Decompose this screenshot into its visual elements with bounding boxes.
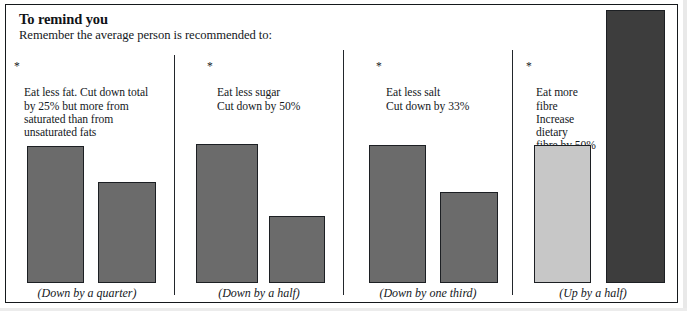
panel-salt-note-text: Eat less salt Cut down by 33%	[386, 86, 516, 112]
infographic-screenshot: To remind you Remember the average perso…	[0, 0, 687, 311]
panel-fat-note-text: Eat less fat. Cut down total by 25% but …	[24, 86, 169, 139]
bullet-marker-salt: *	[376, 60, 382, 73]
bar-fibre-recommended	[606, 10, 665, 283]
panel-fat: * Eat less fat. Cut down total by 25% bu…	[0, 0, 174, 311]
panel-sugar: * Eat less sugar Cut down by 50% (Down b…	[175, 0, 343, 311]
bullet-marker-sugar: *	[207, 60, 213, 73]
panel-salt: * Eat less salt Cut down by 33% (Down by…	[344, 0, 512, 311]
bar-salt-current	[369, 145, 426, 283]
bar-fat-current	[27, 146, 84, 283]
panel-sugar-note: * Eat less sugar Cut down by 50%	[207, 60, 347, 126]
bullet-marker-fibre: *	[526, 60, 532, 73]
bullet-marker-fat: *	[14, 60, 20, 73]
panel-fat-note: * Eat less fat. Cut down total by 25% bu…	[14, 60, 169, 152]
bar-sugar-current	[196, 144, 258, 283]
panel-salt-note: * Eat less salt Cut down by 33%	[376, 60, 516, 126]
bar-fat-recommended	[98, 182, 156, 283]
bar-salt-recommended	[440, 192, 498, 283]
panel-salt-caption: (Down by one third)	[344, 287, 512, 300]
panel-fibre: * Eat more fibre Increase dietary fibre …	[513, 0, 687, 311]
panel-sugar-caption: (Down by a half)	[175, 287, 343, 300]
bar-sugar-recommended	[269, 216, 325, 283]
panel-fat-caption: (Down by a quarter)	[0, 287, 174, 300]
bar-fibre-current	[534, 145, 591, 283]
panel-sugar-note-text: Eat less sugar Cut down by 50%	[217, 86, 347, 112]
panel-fibre-caption: (Up by a half)	[513, 287, 673, 300]
